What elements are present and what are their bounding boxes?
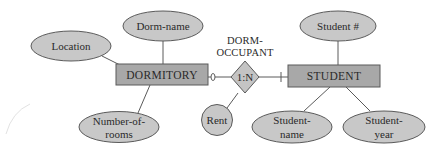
attribute-student-year-label-line2: year	[375, 128, 394, 140]
attribute-number-of-rooms: Number-of- rooms	[79, 112, 159, 143]
er-diagram: Location Dorm-name Number-of- rooms Stud…	[0, 0, 432, 153]
attribute-number-of-rooms-label-line2: rooms	[105, 128, 133, 140]
line-rent-relationship	[227, 93, 238, 108]
entity-dormitory: DORMITORY	[116, 64, 208, 85]
line-rooms-dormitory	[138, 85, 150, 113]
line-studentyear-student	[346, 87, 370, 111]
attribute-student-name-label-line2: name	[280, 128, 304, 140]
attribute-student-year: Student- year	[343, 111, 425, 143]
attribute-location: Location	[31, 31, 111, 61]
entity-student: STUDENT	[288, 65, 380, 87]
entity-dormitory-label: DORMITORY	[126, 69, 198, 81]
attribute-location-label: Location	[51, 40, 91, 52]
scan-artifact-arc	[6, 104, 30, 134]
attribute-student-year-label-line1: Student-	[365, 114, 403, 126]
attribute-number-of-rooms-label-line1: Number-of-	[93, 115, 146, 127]
relationship-name-line2: OCCUPANT	[216, 47, 274, 58]
attribute-student-name: Student- name	[252, 111, 332, 143]
relationship-name-line1: DORM-	[227, 35, 263, 46]
attribute-student-id: Student #	[300, 11, 376, 41]
relationship-attribute-rent: Rent	[202, 105, 233, 136]
relationship-attribute-rent-label: Rent	[207, 114, 228, 126]
attribute-dorm-name: Dorm-name	[123, 11, 203, 41]
relationship-cardinality-label: 1:N	[237, 71, 254, 83]
entity-student-label: STUDENT	[307, 70, 362, 82]
attribute-student-name-label-line1: Student-	[273, 114, 311, 126]
line-studentname-student	[304, 87, 330, 111]
attribute-dorm-name-label: Dorm-name	[136, 20, 189, 32]
attribute-student-id-label: Student #	[317, 20, 359, 32]
relationship-dorm-occupant: 1:N	[231, 61, 259, 93]
zero-cardinality-marker-icon	[211, 74, 215, 81]
